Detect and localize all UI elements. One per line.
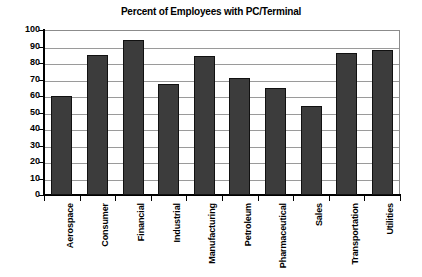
y-axis-tick-label: 80 xyxy=(16,58,40,67)
x-axis-tick-label: Pharmaceutical xyxy=(279,203,288,268)
bar xyxy=(301,106,322,195)
y-axis-tick-label: 10 xyxy=(16,174,40,183)
x-axis-tick-label: Petroleum xyxy=(244,203,253,246)
x-axis-tick-label: Industrial xyxy=(173,203,182,243)
y-axis-tick-label: 90 xyxy=(16,42,40,51)
bar xyxy=(336,53,357,195)
y-axis-tick-label: 50 xyxy=(16,108,40,117)
x-axis-tick xyxy=(293,196,294,201)
x-axis-tick xyxy=(400,196,401,201)
bars-layer xyxy=(44,30,400,195)
x-axis-tick xyxy=(44,196,45,201)
bar xyxy=(123,40,144,195)
bar xyxy=(158,84,179,195)
y-axis-tick-label: 70 xyxy=(16,75,40,84)
chart-title: Percent of Employees with PC/Terminal xyxy=(0,6,422,17)
x-axis-tick-label: Sales xyxy=(315,203,324,226)
y-axis-tick-label: 60 xyxy=(16,91,40,100)
x-axis-tick xyxy=(80,196,81,201)
y-axis-tick-label: 30 xyxy=(16,141,40,150)
x-axis-tick xyxy=(186,196,187,201)
x-axis-tick xyxy=(258,196,259,201)
x-axis-tick-label: Utilities xyxy=(386,203,395,235)
x-axis-labels: AerospaceConsumerFinancialIndustrialManu… xyxy=(44,203,400,277)
bar xyxy=(51,96,72,195)
bar xyxy=(265,88,286,195)
x-axis-tick xyxy=(364,196,365,201)
x-axis-tick xyxy=(222,196,223,201)
bar-chart: Percent of Employees with PC/Terminal 10… xyxy=(0,0,422,277)
y-axis-tick-label: 0 xyxy=(16,190,40,199)
x-axis-tick-label: Aerospace xyxy=(66,203,75,248)
x-axis-tick xyxy=(329,196,330,201)
bar xyxy=(372,50,393,195)
x-axis-tick-label: Consumer xyxy=(101,203,110,247)
x-axis-tick-label: Manufacturing xyxy=(208,203,217,264)
y-axis-tick-label: 40 xyxy=(16,124,40,133)
y-axis-labels: 1009080706050403020100 xyxy=(14,0,40,277)
y-axis-tick-label: 100 xyxy=(16,25,40,34)
bar xyxy=(229,78,250,195)
y-axis-tick-label: 20 xyxy=(16,157,40,166)
x-axis-tick xyxy=(115,196,116,201)
bar xyxy=(194,56,215,195)
x-axis-tick-label: Transportation xyxy=(351,203,360,265)
x-axis-tick-label: Financial xyxy=(137,203,146,241)
bar xyxy=(87,55,108,195)
x-axis-tick xyxy=(151,196,152,201)
